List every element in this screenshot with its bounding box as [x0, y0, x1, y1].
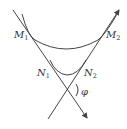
angle-phi-arc [76, 84, 78, 96]
diagram: M1 M2 N1 N2 φ [0, 0, 127, 129]
label-m2: M2 [105, 29, 120, 42]
label-n2: N2 [83, 67, 97, 80]
label-phi: φ [81, 86, 88, 97]
line-m1-n1 [13, 10, 87, 118]
label-m1: M1 [13, 29, 28, 42]
label-n1: N1 [36, 67, 50, 80]
